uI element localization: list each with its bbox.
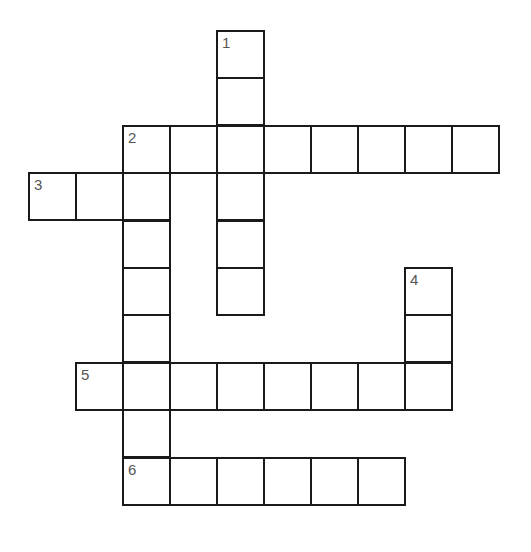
crossword-cell[interactable] xyxy=(310,457,359,506)
crossword-cell[interactable] xyxy=(122,172,171,221)
crossword-cell[interactable] xyxy=(216,457,265,506)
clue-number: 1 xyxy=(222,35,230,50)
crossword-cell[interactable]: 4 xyxy=(404,267,453,316)
crossword-cell[interactable]: 5 xyxy=(75,362,124,411)
crossword-cell[interactable] xyxy=(169,457,218,506)
clue-number: 6 xyxy=(128,462,136,477)
clue-number: 5 xyxy=(81,367,89,382)
crossword-cell[interactable] xyxy=(310,362,359,411)
crossword-cell[interactable] xyxy=(122,314,171,363)
crossword-cell[interactable] xyxy=(310,125,359,174)
crossword-cell[interactable] xyxy=(263,125,312,174)
crossword-cell[interactable] xyxy=(357,457,406,506)
clue-number: 3 xyxy=(34,177,42,192)
crossword-cell[interactable] xyxy=(216,362,265,411)
crossword-cell[interactable] xyxy=(122,409,171,458)
crossword-cell[interactable] xyxy=(357,362,406,411)
crossword-cell[interactable] xyxy=(122,362,171,411)
crossword-cell[interactable] xyxy=(263,457,312,506)
crossword-cell[interactable] xyxy=(169,125,218,174)
crossword-cell[interactable] xyxy=(216,77,265,126)
crossword-cell[interactable] xyxy=(122,220,171,269)
crossword-grid: 126345 xyxy=(0,0,531,552)
crossword-cell[interactable] xyxy=(404,314,453,363)
crossword-cell[interactable]: 3 xyxy=(28,172,77,221)
crossword-cell[interactable] xyxy=(451,125,500,174)
crossword-cell[interactable] xyxy=(216,220,265,269)
clue-number: 4 xyxy=(410,272,418,287)
crossword-cell[interactable]: 6 xyxy=(122,457,171,506)
crossword-cell[interactable] xyxy=(263,362,312,411)
crossword-cell[interactable] xyxy=(216,172,265,221)
crossword-cell[interactable] xyxy=(75,172,124,221)
crossword-cell[interactable] xyxy=(216,267,265,316)
crossword-cell[interactable] xyxy=(404,362,453,411)
crossword-cell[interactable] xyxy=(169,362,218,411)
crossword-cell[interactable] xyxy=(404,125,453,174)
crossword-cell[interactable]: 1 xyxy=(216,30,265,79)
crossword-cell[interactable] xyxy=(216,125,265,174)
crossword-cell[interactable] xyxy=(122,267,171,316)
clue-number: 2 xyxy=(128,130,136,145)
crossword-cell[interactable]: 2 xyxy=(122,125,171,174)
crossword-cell[interactable] xyxy=(357,125,406,174)
